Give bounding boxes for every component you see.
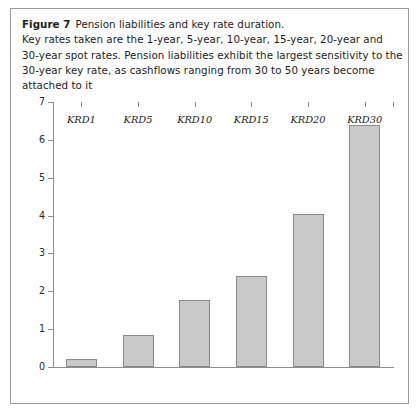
y-axis-tick-label: 2 <box>39 284 45 297</box>
x-axis-tick-label: KRD10 <box>177 114 212 125</box>
y-axis-tick: 1 <box>48 329 53 330</box>
y-axis-tick: 3 <box>48 253 53 254</box>
x-axis-tick <box>195 102 196 107</box>
y-axis-tick: 2 <box>48 291 53 292</box>
x-axis-tick <box>251 102 252 107</box>
y-axis-tick: 7 <box>48 102 53 103</box>
x-axis-tick-label: KRD5 <box>124 114 153 125</box>
x-axis-tick-label: KRD20 <box>290 114 325 125</box>
bar <box>349 125 380 367</box>
x-axis-tick <box>138 102 139 107</box>
figure-frame: Figure 7Pension liabilities and key rate… <box>10 8 409 404</box>
y-axis-tick-label: 5 <box>39 171 45 184</box>
y-axis-tick-label: 4 <box>39 209 45 222</box>
x-axis-tick <box>81 102 82 107</box>
x-axis-tick-label: KRD15 <box>234 114 269 125</box>
x-axis-end-tick <box>393 102 394 107</box>
y-axis-tick-label: 1 <box>39 322 45 335</box>
bar-chart: 01234567KRD1KRD5KRD10KRD15KRD20KRD30 <box>11 9 410 405</box>
y-axis-tick-label: 7 <box>39 95 45 108</box>
bar <box>123 335 154 367</box>
x-axis-tick <box>308 102 309 107</box>
y-axis-tick-label: 3 <box>39 246 45 259</box>
y-axis-tick-label: 0 <box>39 360 45 373</box>
y-axis-tick: 6 <box>48 140 53 141</box>
bar <box>179 300 210 367</box>
bar <box>236 276 267 367</box>
y-axis-tick-label: 6 <box>39 133 45 146</box>
x-axis-line <box>53 367 394 368</box>
bar <box>66 359 97 367</box>
y-axis-tick: 5 <box>48 178 53 179</box>
y-axis-tick: 0 <box>48 367 53 368</box>
x-axis-tick-label: KRD1 <box>67 114 96 125</box>
x-axis-tick-label: KRD30 <box>347 114 382 125</box>
plot-area: 01234567KRD1KRD5KRD10KRD15KRD20KRD30 <box>53 102 393 367</box>
y-axis-tick: 4 <box>48 216 53 217</box>
bar <box>293 214 324 367</box>
x-axis-tick <box>365 102 366 107</box>
